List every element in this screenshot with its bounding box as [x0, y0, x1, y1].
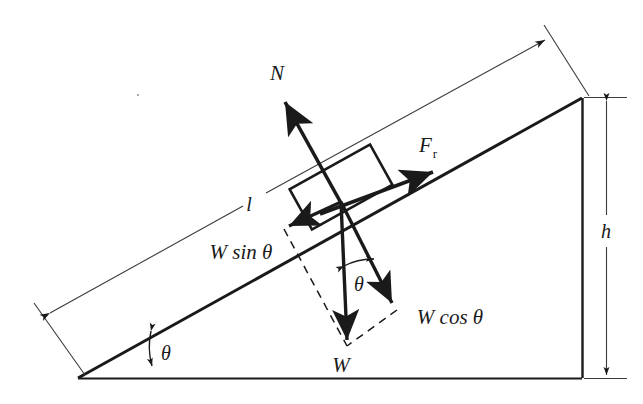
l-extension-tick-left: [34, 303, 85, 375]
weight-arrow: [341, 202, 347, 340]
weight-parallel-arrow: [289, 202, 341, 226]
weight-parallel-vector: W sin θ: [210, 202, 341, 264]
incline-surface: [78, 98, 582, 378]
normal-force-label: N: [269, 61, 285, 85]
inclined-plane-diagram: l h θ N: [0, 0, 643, 404]
resolution-angle-label: θ: [354, 273, 364, 295]
weight-perpendicular-label: W cos θ: [417, 305, 483, 329]
incline-length-label: l: [246, 193, 252, 215]
incline-angle-label: θ: [161, 342, 171, 364]
diagram-canvas: l h θ N: [0, 0, 643, 404]
weight-label: W: [332, 353, 352, 377]
incline-wedge: [78, 98, 583, 379]
friction-force-label: Fr: [418, 133, 438, 161]
resolution-angle-marker: θ: [344, 259, 374, 295]
component-parallelogram: [284, 229, 397, 346]
height-dimension: h: [584, 98, 627, 379]
incline-length-dimension: l: [34, 25, 589, 375]
friction-force-symbol: F: [418, 133, 432, 157]
l-dimension-line-upper: [266, 40, 545, 193]
friction-force-subscript: r: [433, 146, 438, 161]
dashed-parallel-to-sin: [347, 310, 397, 346]
weight-parallel-label: W sin θ: [210, 240, 273, 264]
scan-speck: [137, 94, 139, 96]
l-extension-tick-right: [544, 25, 589, 96]
height-label: h: [601, 220, 611, 242]
